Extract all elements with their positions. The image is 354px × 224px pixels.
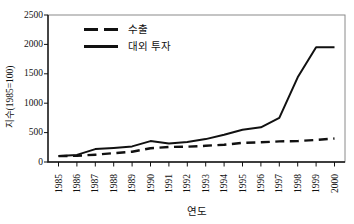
x-tick-label: 1989 [127,168,138,198]
legend: 수출 대외 투자 [84,22,171,56]
y-tick-label: 500 [29,127,43,138]
y-tick-label: 2500 [24,10,43,21]
y-axis-title: 지수(1985=100) [4,55,16,139]
x-tick-label: 1990 [145,168,156,198]
legend-label-outward-investment: 대외 투자 [128,40,171,53]
dash-segment [84,28,98,31]
x-tick-label: 1993 [200,168,211,198]
x-tick-label: 1994 [219,168,230,198]
solid-line-swatch [84,45,118,48]
x-tick-label: 1987 [90,168,101,198]
y-tick-label: 1500 [24,68,43,79]
y-tick-label: 1000 [24,98,43,109]
x-tick-label: 2000 [329,168,340,198]
dash-segment [104,28,118,31]
line-chart-figure: 지수(1985=100) 05001000150020002500 198519… [0,0,354,224]
dashed-line-swatch [84,28,118,31]
x-tick-label: 1992 [182,168,193,198]
y-tick-label: 2000 [24,39,43,50]
x-tick-label: 1996 [255,168,266,198]
legend-item-outward-investment: 대외 투자 [84,39,171,54]
x-tick-label: 1995 [237,168,248,198]
x-tick-label: 1991 [163,168,174,198]
x-tick-label: 1999 [311,168,322,198]
series-line-대외 투자 [59,47,335,156]
legend-item-exports: 수출 [84,22,171,37]
x-tick-label: 1997 [274,168,285,198]
x-tick-label: 1986 [71,168,82,198]
x-tick-label: 1988 [108,168,119,198]
x-axis-title: 연도 [150,205,244,218]
x-tick-label: 1985 [53,168,64,198]
x-tick-label: 1998 [292,168,303,198]
y-tick-label: 0 [38,157,43,168]
legend-label-exports: 수출 [128,23,148,36]
